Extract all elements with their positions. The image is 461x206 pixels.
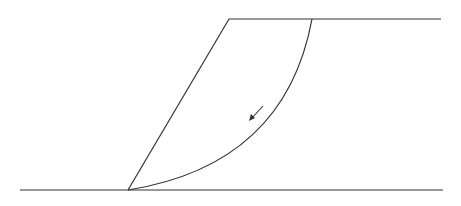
slope-diagram bbox=[0, 0, 461, 206]
slip-surface bbox=[128, 19, 312, 190]
slope-face bbox=[128, 19, 229, 190]
movement-arrow-icon bbox=[249, 106, 263, 121]
